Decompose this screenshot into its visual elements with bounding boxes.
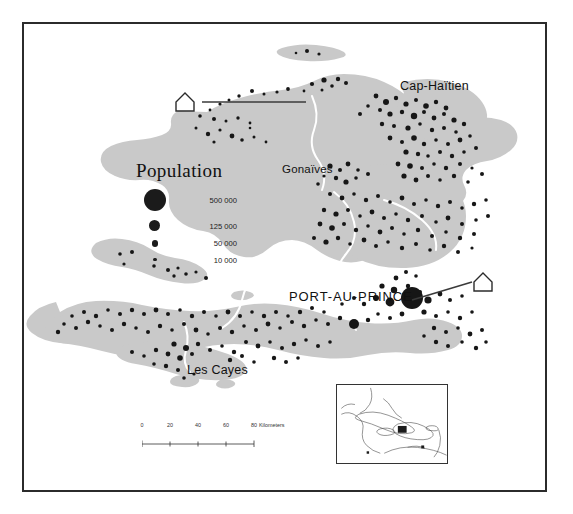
scale-tick-60: 60	[223, 422, 229, 428]
city-label-cap-haitien: Cap-Haïtien	[400, 79, 469, 93]
inset-marker-a	[421, 445, 424, 448]
legend-symbol-500000	[144, 189, 166, 211]
callout-portauprince[interactable]	[412, 273, 492, 300]
callout-northwest[interactable]	[176, 93, 306, 111]
inset-south-america	[384, 447, 446, 455]
inset-lesser-antilles	[434, 430, 441, 457]
inset-florida	[360, 388, 372, 413]
map-figure: Cap-Haïtien Gonaïves PORT-AU-PRINCE Les …	[0, 0, 573, 514]
map-canvas: Cap-Haïtien Gonaïves PORT-AU-PRINCE Les …	[24, 24, 545, 490]
city-label-gonaives: Gonaïves	[282, 163, 333, 175]
scale-tick-labels: 0 20 40 60 80 Kilometers	[142, 422, 292, 432]
scale-tick-80: 80	[251, 422, 257, 428]
inset-locator-map[interactable]	[336, 384, 448, 464]
inset-central-america	[341, 413, 380, 454]
scale-bar-svg	[142, 440, 292, 447]
scale-tick-20: 20	[167, 422, 173, 428]
inset-marker-b	[367, 451, 369, 453]
inset-highlight-group	[367, 426, 425, 454]
legend-value-50000: 50 000	[175, 239, 237, 248]
inset-mexico-coast	[341, 404, 355, 408]
city-label-port-au-prince: PORT-AU-PRINCE	[289, 289, 413, 304]
scale-tick-40: 40	[195, 422, 201, 428]
legend-value-125000: 125 000	[175, 222, 237, 231]
population-legend: Population 500 000 125 000 50 000 10 000	[127, 160, 252, 189]
inset-geometry	[337, 385, 447, 463]
city-label-les-cayes: Les Cayes	[187, 363, 248, 377]
scale-tick-0: 0	[141, 422, 144, 428]
scale-bar: 0 20 40 60 80 Kilometers	[142, 422, 292, 440]
callout-leader-line	[412, 282, 472, 300]
inset-hispaniola-highlight	[398, 426, 407, 433]
legend-value-500000: 500 000	[175, 196, 237, 205]
pentagon-marker[interactable]	[474, 273, 492, 291]
legend-value-10000: 10 000	[175, 256, 237, 265]
legend-symbol-50000	[152, 240, 159, 247]
map-frame: Cap-Haïtien Gonaïves PORT-AU-PRINCE Les …	[22, 22, 547, 492]
pentagon-marker[interactable]	[176, 93, 194, 111]
scale-bar-graphic	[142, 433, 292, 440]
inset-bahamas	[383, 399, 402, 419]
legend-title: Population	[136, 160, 252, 182]
scale-unit-label: Kilometers	[259, 422, 284, 428]
